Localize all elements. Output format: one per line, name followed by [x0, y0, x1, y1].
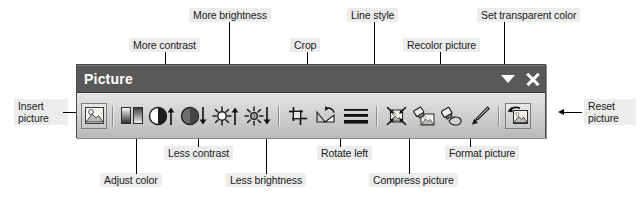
insert-picture-button[interactable]: [81, 103, 107, 129]
callout-reset-picture-line1: Reset: [588, 100, 615, 112]
separator: [112, 106, 114, 126]
callout-format-picture: Format picture: [445, 146, 519, 160]
color-button[interactable]: [119, 103, 145, 129]
leader-arrow-reset-picture: [558, 109, 564, 115]
callout-less-brightness: Less brightness: [226, 173, 306, 187]
leader-reset-picture: [562, 112, 582, 113]
chevron-down-icon[interactable]: [501, 75, 515, 83]
insert-picture-icon: [85, 107, 104, 124]
callout-more-contrast: More contrast: [129, 38, 200, 52]
callout-crop: Crop: [290, 38, 320, 52]
figure-canvas: Insert picture More contrast More bright…: [0, 0, 644, 199]
rotate-left-button[interactable]: [313, 103, 339, 129]
picture-toolbar: Picture: [76, 64, 546, 138]
callout-insert-picture-line2: picture: [18, 112, 49, 124]
set-transparent-color-icon: [470, 106, 490, 126]
compress-picture-icon: [386, 106, 407, 126]
callout-set-transparent-color: Set transparent color: [477, 8, 580, 22]
separator: [376, 106, 378, 126]
less-contrast-button[interactable]: [179, 103, 209, 129]
reset-picture-icon: [507, 106, 529, 125]
callout-recolor-picture: Recolor picture: [403, 38, 480, 52]
line-style-button[interactable]: [341, 103, 371, 129]
toolbar-title: Picture: [84, 71, 133, 87]
less-brightness-button[interactable]: [243, 103, 273, 129]
more-brightness-icon: [212, 106, 240, 126]
callout-adjust-color: Adjust color: [100, 173, 162, 187]
less-brightness-icon: [244, 106, 272, 126]
compress-picture-button[interactable]: [383, 103, 409, 129]
recolor-picture-icon: [413, 106, 435, 126]
crop-icon: [288, 106, 308, 126]
toolbar-titlebar[interactable]: Picture: [77, 65, 545, 93]
format-picture-button[interactable]: [439, 103, 465, 129]
callout-more-brightness: More brightness: [189, 8, 271, 22]
more-brightness-button[interactable]: [211, 103, 241, 129]
separator: [498, 106, 500, 126]
toolbar-button-strip: [77, 93, 545, 138]
more-contrast-button[interactable]: [147, 103, 177, 129]
rotate-left-icon: [315, 106, 337, 125]
reset-picture-button[interactable]: [505, 103, 531, 129]
callout-compress-picture: Compress picture: [369, 173, 458, 187]
callout-less-contrast: Less contrast: [164, 146, 233, 160]
callout-reset-picture: Reset picture: [584, 99, 636, 125]
set-transparent-color-button[interactable]: [467, 103, 493, 129]
line-style-icon: [343, 107, 369, 125]
callout-insert-picture-line1: Insert: [18, 100, 44, 112]
callout-line-style: Line style: [347, 8, 398, 22]
crop-button[interactable]: [285, 103, 311, 129]
callout-rotate-left: Rotate left: [317, 146, 372, 160]
format-picture-icon: [441, 106, 463, 126]
less-contrast-icon: [180, 106, 208, 126]
callout-reset-picture-line2: picture: [588, 112, 619, 124]
more-contrast-icon: [148, 106, 176, 126]
recolor-picture-button[interactable]: [411, 103, 437, 129]
adjust-color-icon: [121, 107, 143, 124]
close-icon[interactable]: [526, 72, 539, 85]
callout-insert-picture: Insert picture: [14, 99, 68, 125]
separator: [278, 106, 280, 126]
